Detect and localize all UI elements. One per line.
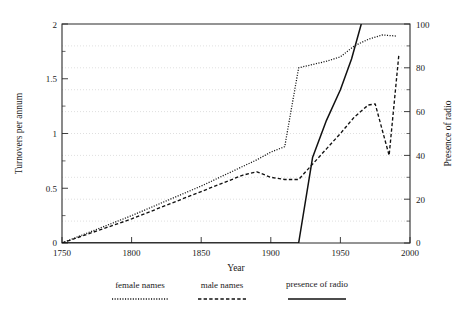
xticklabel-1900: 1900	[262, 248, 281, 258]
y2ticklabel-80: 80	[416, 63, 426, 73]
y2ticklabel-60: 60	[416, 107, 426, 117]
yticklabel-1_5: 1.5	[46, 74, 58, 84]
legend-label-female-names: female names	[115, 280, 165, 290]
chart-canvas: 0 0.5 1 1.5 2 Turnovers per annum 0 20	[0, 0, 468, 319]
yticklabel-1: 1	[53, 129, 58, 139]
y2ticklabel-0: 0	[416, 238, 421, 248]
y2-axis-title: Presence of radio	[443, 100, 453, 166]
chart-legend: female names male names presence of radi…	[112, 279, 348, 299]
chart-figure: 0 0.5 1 1.5 2 Turnovers per annum 0 20	[0, 0, 468, 319]
legend-label-male-names: male names	[201, 280, 244, 290]
yticklabel-0_5: 0.5	[46, 184, 58, 194]
y2ticklabel-100: 100	[416, 20, 430, 30]
y-axis-title: Turnovers per annum	[14, 92, 24, 174]
xticklabel-1800: 1800	[123, 248, 142, 258]
right-axis-ticklabels: 0 20 40 60 80 100	[416, 20, 430, 249]
x-axis-ticklabels: 1750 1800 1850 1900 1950 2000	[53, 248, 420, 258]
legend-label-presence-of-radio: presence of radio	[286, 279, 348, 289]
left-axis-ticklabels: 0 0.5 1 1.5 2	[46, 20, 58, 249]
xticklabel-1850: 1850	[192, 248, 211, 258]
y2ticklabel-20: 20	[416, 195, 426, 205]
y2ticklabel-40: 40	[416, 151, 426, 161]
x-axis-title: Year	[227, 263, 245, 273]
yticklabel-2: 2	[53, 20, 58, 30]
yticklabel-0: 0	[53, 238, 58, 248]
xticklabel-2000: 2000	[401, 248, 420, 258]
xticklabel-1950: 1950	[331, 248, 350, 258]
xticklabel-1750: 1750	[53, 248, 72, 258]
